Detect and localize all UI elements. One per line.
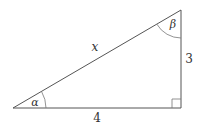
alpha-angle-arc: [42, 91, 47, 108]
alpha-angle-label: α: [31, 96, 39, 109]
horizontal-leg-label: 4: [93, 111, 101, 125]
hypotenuse-label: x: [92, 40, 99, 54]
beta-angle-label: β: [169, 18, 176, 31]
right-triangle-diagram: x 3 4 α β: [0, 0, 200, 125]
right-angle-marker: [172, 99, 181, 108]
hypotenuse-line: [13, 10, 181, 108]
vertical-leg-label: 3: [185, 52, 193, 66]
triangle-svg: x 3 4 α β: [0, 0, 200, 125]
